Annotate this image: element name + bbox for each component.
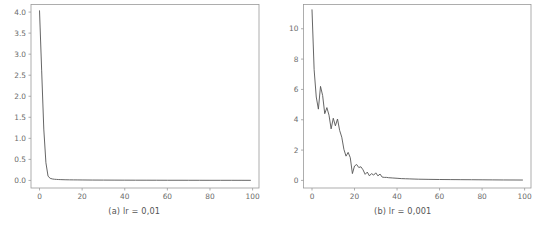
series-line-loss xyxy=(40,11,251,181)
series-line-loss xyxy=(312,10,523,180)
y-tick-label: 2.5 xyxy=(14,71,26,80)
x-tick-label: 20 xyxy=(349,192,359,201)
y-tick-label: 0.0 xyxy=(14,176,26,185)
x-tick-label: 80 xyxy=(477,192,487,201)
y-tick-label: 1.5 xyxy=(14,113,26,122)
x-tick-label: 40 xyxy=(120,192,130,201)
y-tick-label: 2.0 xyxy=(14,92,26,101)
x-tick-label: 100 xyxy=(246,192,260,201)
x-tick-label: 0 xyxy=(37,192,42,201)
y-tick-label: 4 xyxy=(293,115,298,124)
chart-b-loss-curve: 0204060801000246810 xyxy=(269,0,537,206)
figure-two-panel-loss-curves: 0204060801000.00.51.01.52.02.53.03.54.0 … xyxy=(0,0,537,234)
x-tick-label: 60 xyxy=(434,192,444,201)
y-tick-label: 10 xyxy=(289,24,299,33)
y-tick-label: 3.5 xyxy=(14,29,26,38)
y-tick-label: 3.0 xyxy=(14,50,26,59)
y-tick-label: 0 xyxy=(293,176,298,185)
y-tick-label: 6 xyxy=(293,85,298,94)
y-tick-label: 4.0 xyxy=(14,8,26,17)
panel-b: 0204060801000246810 (b) lr = 0,001 xyxy=(269,0,537,234)
y-tick-label: 1.0 xyxy=(14,134,26,143)
panel-a: 0204060801000.00.51.01.52.02.53.03.54.0 … xyxy=(0,0,269,234)
x-tick-label: 0 xyxy=(309,192,314,201)
caption-a: (a) lr = 0,01 xyxy=(0,206,269,216)
y-tick-label: 0.5 xyxy=(14,155,26,164)
y-tick-label: 8 xyxy=(293,55,298,64)
x-tick-label: 60 xyxy=(163,192,173,201)
x-tick-label: 40 xyxy=(392,192,402,201)
x-tick-label: 100 xyxy=(517,192,531,201)
x-tick-label: 80 xyxy=(205,192,215,201)
chart-a-loss-curve: 0204060801000.00.51.01.52.02.53.03.54.0 xyxy=(0,0,269,206)
y-tick-label: 2 xyxy=(293,146,298,155)
x-tick-label: 20 xyxy=(77,192,87,201)
caption-b: (b) lr = 0,001 xyxy=(269,206,537,216)
